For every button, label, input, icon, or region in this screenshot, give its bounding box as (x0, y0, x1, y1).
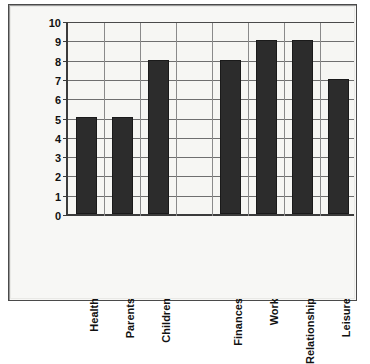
bar[interactable] (148, 60, 169, 214)
bar[interactable] (220, 60, 241, 214)
x-axis: HealthParentsChildrenFinancesWorkRelatio… (66, 218, 354, 302)
category-separator (320, 23, 321, 216)
y-tick-mark (63, 119, 68, 120)
y-tick-mark (63, 99, 68, 100)
x-tick-label: Finances (233, 298, 244, 346)
category-separator (176, 23, 177, 216)
x-tick-label: Leisure (341, 298, 352, 337)
y-tick-mark (63, 157, 68, 158)
y-tick-label: 4 (39, 133, 61, 144)
x-tick-label: Work (269, 298, 280, 325)
y-tick-mark (63, 41, 68, 42)
y-tick-label: 8 (39, 56, 61, 67)
y-tick-label: 1 (39, 191, 61, 202)
x-tick-label: Health (89, 298, 100, 332)
y-tick-label: 2 (39, 172, 61, 183)
y-tick-label: 6 (39, 95, 61, 106)
bar[interactable] (328, 79, 349, 214)
bar[interactable] (76, 117, 97, 214)
y-tick-mark (63, 215, 68, 216)
bar[interactable] (112, 117, 133, 214)
category-separator (284, 23, 285, 216)
y-tick-label: 3 (39, 153, 61, 164)
bar[interactable] (256, 40, 277, 214)
x-tick-label: Children (161, 298, 172, 343)
y-axis: 012345678910 (36, 23, 61, 216)
plot-area (66, 23, 354, 216)
y-tick-label: 10 (39, 18, 61, 29)
y-tick-label: 0 (39, 211, 61, 222)
x-tick-label: Relationship (305, 298, 316, 364)
x-tick-label: Parents (125, 298, 136, 338)
y-tick-label: 9 (39, 37, 61, 48)
y-tick-label: 5 (39, 114, 61, 125)
y-tick-label: 7 (39, 75, 61, 86)
category-separator (104, 23, 105, 216)
y-tick-mark (63, 80, 68, 81)
category-separator (212, 23, 213, 216)
y-tick-mark (63, 176, 68, 177)
chart-frame: 012345678910 HealthParentsChildrenFinanc… (8, 4, 357, 301)
plot-right-border (354, 23, 355, 216)
bar[interactable] (292, 40, 313, 214)
y-tick-mark (63, 22, 68, 23)
category-separator (248, 23, 249, 216)
y-tick-mark (63, 196, 68, 197)
y-tick-mark (63, 138, 68, 139)
y-tick-mark (63, 61, 68, 62)
category-separator (140, 23, 141, 216)
